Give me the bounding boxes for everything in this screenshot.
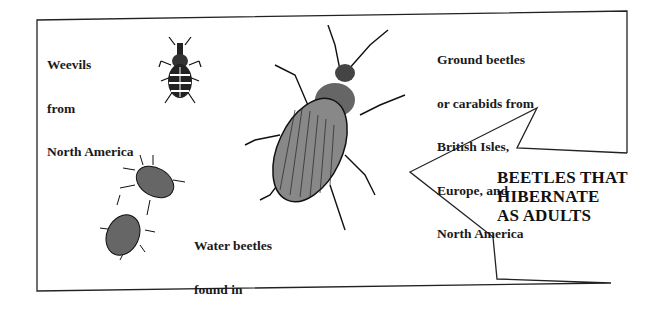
weevil-icon xyxy=(155,35,205,110)
weevils-label: Weevils from North America xyxy=(47,29,134,174)
ground-beetle-icon xyxy=(240,25,420,235)
water-beetles-label: Water beetles found in British Isles, Eu… xyxy=(194,210,281,309)
diagram-title: BEETLES THAT HIBERNATE AS ADULTS xyxy=(497,168,628,225)
